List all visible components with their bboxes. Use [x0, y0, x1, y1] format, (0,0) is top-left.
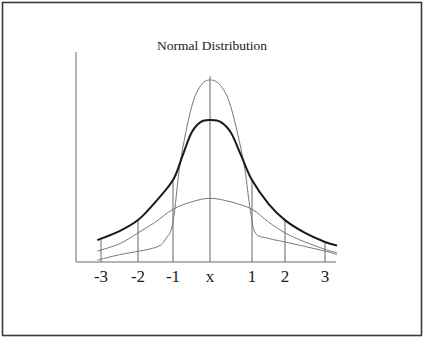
curves [97, 80, 337, 260]
x-tick-label: 3 [321, 267, 330, 286]
x-tick-label: 1 [248, 267, 257, 286]
normal-distribution-figure: Normal Distribution -3-2-1x123 [0, 0, 425, 342]
x-tick-label: -3 [94, 267, 108, 286]
curve-wide-flat [97, 198, 337, 253]
curve-narrow-tall [97, 80, 337, 260]
x-tick-labels: -3-2-1x123 [94, 267, 329, 286]
sigma-lines [101, 76, 325, 262]
x-tick-label: -2 [131, 267, 145, 286]
x-tick-label: 2 [281, 267, 290, 286]
curve-standard [97, 120, 337, 246]
chart-title: Normal Distribution [157, 38, 267, 53]
x-tick-label: -1 [166, 267, 180, 286]
x-tick-label: x [206, 267, 215, 286]
